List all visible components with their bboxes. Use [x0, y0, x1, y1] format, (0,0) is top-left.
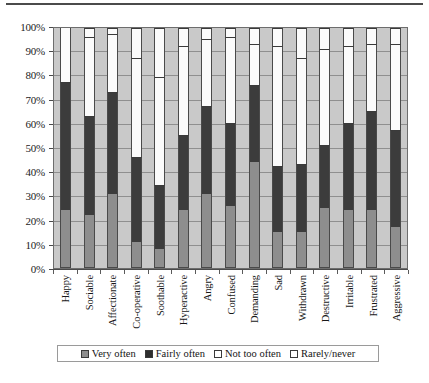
x-axis-label-slot: Demanding — [247, 273, 261, 343]
y-axis: 0%10%20%30%40%50%60%70%80%90%100% — [0, 0, 50, 383]
x-axis-category-label: Affectionate — [107, 275, 118, 326]
x-axis-label-slot: Sociable — [82, 273, 96, 343]
x-axis-label-slot: Hyperactive — [176, 273, 190, 343]
x-axis-label-slot: Irritable — [342, 273, 356, 343]
x-axis-category-label: Frustrated — [367, 275, 378, 317]
legend-entry[interactable]: Rarely/never — [290, 348, 355, 359]
bar-segment-rarely-never — [201, 28, 212, 40]
bar-segment-not-too-often — [178, 47, 189, 136]
bar-segment-rarely-never — [84, 28, 95, 38]
stacked-bar[interactable] — [225, 28, 236, 268]
legend-swatch-icon — [145, 350, 153, 358]
bar-slot — [289, 28, 313, 268]
x-axis-label-slot: Frustrated — [366, 273, 380, 343]
x-axis-category-label: Sad — [272, 275, 283, 290]
legend-label: Fairly often — [156, 348, 205, 359]
stacked-bar-chart: 0%10%20%30%40%50%60%70%80%90%100% HappyS… — [0, 0, 429, 383]
y-axis-tick-label: 0% — [31, 263, 45, 275]
y-axis-tick-label: 70% — [25, 94, 45, 106]
bar-segment-not-too-often — [154, 78, 165, 186]
legend-entry[interactable]: Very often — [81, 348, 136, 359]
bar-segment-fairly-often — [60, 83, 71, 210]
stacked-bar[interactable] — [296, 28, 307, 268]
x-axis-label-slot: Angry — [200, 273, 214, 343]
bar-segment-rarely-never — [225, 28, 236, 38]
x-axis-label-slot: Soothable — [153, 273, 167, 343]
y-axis-tick-label: 90% — [25, 45, 45, 57]
legend-label: Rarely/never — [301, 348, 355, 359]
legend-entry[interactable]: Not too often — [214, 348, 281, 359]
bar-segment-not-too-often — [343, 47, 354, 124]
x-axis-label-slot: Happy — [58, 273, 72, 343]
stacked-bar[interactable] — [60, 28, 71, 268]
stacked-bar[interactable] — [366, 28, 377, 268]
bar-slot — [148, 28, 172, 268]
bar-slot — [313, 28, 337, 268]
stacked-bar[interactable] — [154, 28, 165, 268]
y-axis-tick-label: 40% — [25, 166, 45, 178]
x-axis-category-label: Aggressive — [391, 275, 402, 321]
y-axis-tick-label: 50% — [25, 142, 45, 154]
stacked-bar[interactable] — [319, 28, 330, 268]
x-axis-category-label: Angry — [201, 275, 212, 301]
bar-slot — [336, 28, 360, 268]
bar-segment-fairly-often — [390, 131, 401, 227]
bar-segment-fairly-often — [319, 146, 330, 208]
stacked-bar[interactable] — [178, 28, 189, 268]
bar-segment-rarely-never — [178, 28, 189, 47]
bar-slot — [54, 28, 78, 268]
legend-label: Not too often — [225, 348, 281, 359]
x-axis-label-slot: Aggressive — [389, 273, 403, 343]
x-axis-label-slot: Destructive — [318, 273, 332, 343]
bar-segment-not-too-often — [390, 45, 401, 131]
stacked-bar[interactable] — [131, 28, 142, 268]
plot-area — [53, 27, 408, 269]
bar-segment-fairly-often — [178, 136, 189, 210]
legend-swatch-icon — [81, 350, 89, 358]
bar-segment-rarely-never — [366, 28, 377, 45]
y-axis-tick-label: 20% — [25, 215, 45, 227]
bar-segment-fairly-often — [225, 124, 236, 206]
bar-segment-fairly-often — [107, 93, 118, 194]
stacked-bar[interactable] — [84, 28, 95, 268]
legend-entry[interactable]: Fairly often — [145, 348, 205, 359]
y-axis-tick-label: 80% — [25, 69, 45, 81]
bar-segment-very-often — [201, 194, 212, 268]
stacked-bar[interactable] — [343, 28, 354, 268]
bar-segment-not-too-often — [107, 35, 118, 93]
bar-segment-very-often — [319, 208, 330, 268]
bar-segment-not-too-often — [225, 38, 236, 124]
bar-segment-not-too-often — [296, 59, 307, 165]
bar-segment-rarely-never — [272, 28, 283, 47]
bar-segment-very-often — [296, 232, 307, 268]
bar-slot — [266, 28, 290, 268]
bar-segment-rarely-never — [390, 28, 401, 45]
stacked-bar[interactable] — [107, 28, 118, 268]
x-axis-category-label: Sociable — [83, 275, 94, 310]
bar-slot — [360, 28, 384, 268]
bar-segment-very-often — [84, 215, 95, 268]
bar-segment-fairly-often — [249, 86, 260, 163]
bar-segment-very-often — [131, 242, 142, 268]
bar-segment-fairly-often — [272, 167, 283, 232]
bar-segment-very-often — [390, 227, 401, 268]
stacked-bar[interactable] — [272, 28, 283, 268]
bar-segment-very-often — [60, 210, 71, 268]
bar-segment-rarely-never — [154, 28, 165, 78]
x-axis-labels: HappySociableAffectionateCo-operativeSoo… — [53, 273, 408, 343]
stacked-bar[interactable] — [201, 28, 212, 268]
stacked-bar[interactable] — [249, 28, 260, 268]
bar-segment-not-too-often — [84, 38, 95, 117]
bar-segment-fairly-often — [154, 186, 165, 248]
bar-slot — [101, 28, 125, 268]
bar-slot — [78, 28, 102, 268]
bar-segment-not-too-often — [319, 50, 330, 146]
bar-segment-rarely-never — [107, 28, 118, 35]
x-axis-category-label: Co-operative — [130, 275, 141, 329]
stacked-bar[interactable] — [390, 28, 401, 268]
bar-segment-not-too-often — [131, 59, 142, 157]
bar-segment-fairly-often — [201, 107, 212, 193]
y-axis-tick-label: 10% — [25, 239, 45, 251]
y-axis-tick-label: 30% — [25, 190, 45, 202]
chart-legend: Very oftenFairly oftenNot too oftenRarel… — [57, 345, 379, 362]
